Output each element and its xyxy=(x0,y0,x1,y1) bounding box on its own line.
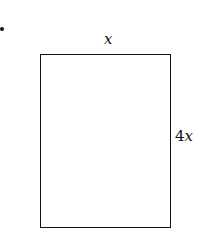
height-coefficient: 4 xyxy=(175,127,185,145)
width-label: x xyxy=(104,32,112,47)
height-label: 4x xyxy=(175,129,193,144)
height-variable: x xyxy=(185,127,193,145)
bullet-dot xyxy=(0,27,4,31)
rectangle-shape xyxy=(40,54,171,228)
